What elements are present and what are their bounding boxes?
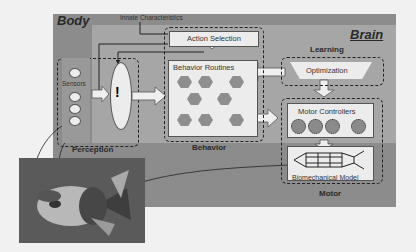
fish-illustration [19,158,145,243]
controller-gear-icon [291,119,306,134]
controller-gear-icon [325,119,340,134]
learning-title: Learning [310,45,344,54]
controller-gear-icon [351,119,366,134]
action-selection-box: Action Selection [169,31,259,47]
optimization-label: Optimization [306,66,348,75]
biomechanical-model-label: Biomechanical Model [292,174,359,181]
controller-gear-icon [308,119,323,134]
behavior-title: Behavior [192,143,226,152]
fish-skeleton-icon [292,149,368,171]
behavior-routines-label: Behavior Routines [173,63,234,72]
motor-title: Motor [319,189,341,198]
motor-controllers-label: Motor Controllers [298,107,356,116]
fish-photo [19,158,145,243]
